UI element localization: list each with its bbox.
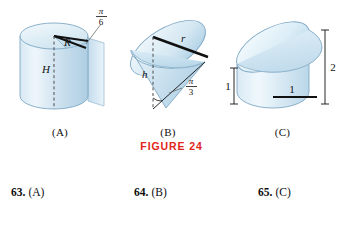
angle-numerator-pi: π: [189, 76, 194, 86]
diagram-cylinder-slanted-top: 1 2 1: [222, 0, 343, 126]
label-radius-R: R: [63, 36, 71, 48]
exercise-64: 64.(B): [134, 186, 167, 198]
dimension-left-1: 1: [225, 68, 238, 104]
exercise-65: 65.(C): [258, 186, 291, 198]
label-base-radius-1: 1: [289, 83, 295, 95]
exercise-64-number: 64.: [134, 186, 148, 198]
diagram-cone-slanted: r h π 3: [112, 0, 224, 126]
label-angle-pi-over-6: π 6: [96, 6, 107, 27]
angle-numerator-pi: π: [99, 6, 104, 16]
label-height-h: h: [142, 68, 148, 80]
label-radius-r: r: [181, 32, 186, 44]
figure-page: R H π 6 (A): [0, 0, 343, 226]
exercise-63: 63.(A): [11, 186, 44, 198]
figure-caption: FIGURE 24: [0, 140, 343, 152]
figure-panel-c: 1 2 1 (C): [222, 0, 343, 150]
figure-panel-b: r h π 3 (B): [112, 0, 224, 150]
cut-plane-flap: [88, 38, 104, 106]
exercise-63-answer: (A): [28, 186, 44, 198]
dimension-right-2: 2: [321, 30, 336, 104]
label-right-height-2: 2: [330, 61, 336, 73]
panel-label-b: (B): [112, 126, 224, 138]
panel-label-a: (A): [0, 126, 120, 138]
label-height-H: H: [41, 63, 51, 75]
angle-denominator-6: 6: [99, 17, 104, 27]
panel-label-c: (C): [222, 126, 343, 138]
figure-panel-a: R H π 6 (A): [0, 0, 120, 150]
exercise-65-answer: (C): [275, 186, 290, 198]
exercise-65-number: 65.: [258, 186, 272, 198]
diagram-cylinder-wedge: R H π 6: [0, 0, 120, 126]
exercise-63-number: 63.: [11, 186, 25, 198]
angle-denominator-3: 3: [189, 87, 194, 97]
label-left-height-1: 1: [225, 80, 231, 92]
exercise-answer-row: 63.(A) 64.(B) 65.(C): [0, 186, 343, 208]
exercise-64-answer: (B): [151, 186, 166, 198]
